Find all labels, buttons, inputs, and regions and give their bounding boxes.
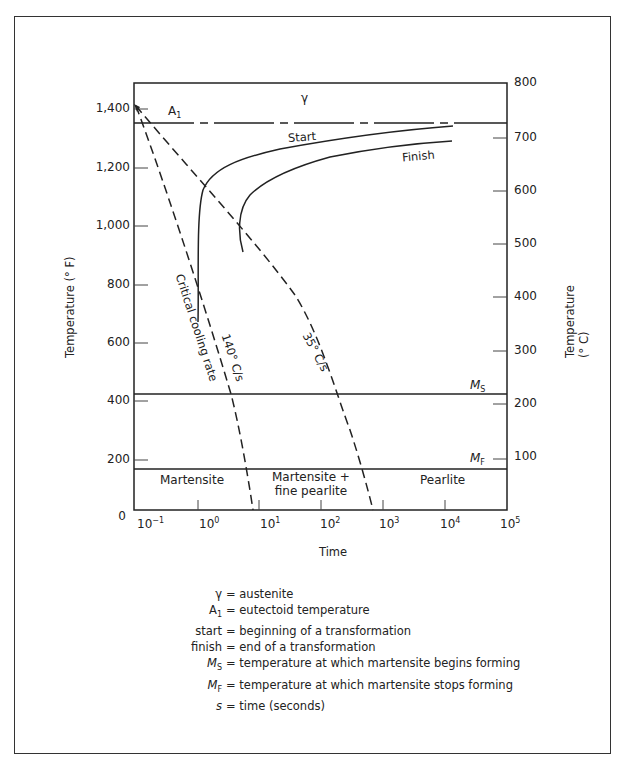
right-tick-300: 300 xyxy=(514,343,537,357)
cooling-curve-35 xyxy=(136,106,373,510)
left-tick-600: 600 xyxy=(80,335,130,349)
legend-text: = end of a transformation xyxy=(226,639,376,655)
legend-row-finish: finish= end of a transformation xyxy=(150,639,520,655)
left-axis-ticks xyxy=(134,109,148,460)
legend-text: = austenite xyxy=(226,586,293,602)
left-tick-1400: 1,400 xyxy=(80,101,130,115)
mart-fine-line2: fine pearlite xyxy=(272,484,350,498)
legend: γ= austenite A1= eutectoid temperature s… xyxy=(150,586,520,714)
legend-key: finish xyxy=(191,640,222,654)
bottom-tick-1e0: 100 xyxy=(199,516,219,531)
legend-sub: S xyxy=(217,664,222,673)
left-tick-0: 0 xyxy=(76,509,126,523)
base: 10 xyxy=(500,517,515,531)
legend-key: M xyxy=(207,678,217,692)
y-axis-left-title: Temperature (° F) xyxy=(63,257,77,359)
legend-key: start xyxy=(195,624,222,638)
base: 10 xyxy=(320,517,335,531)
martensite-fine-pearlite-label: Martensite + fine pearlite xyxy=(272,470,350,498)
legend-row-start: start= beginning of a transformation xyxy=(150,623,520,639)
mf-text: M xyxy=(470,451,480,465)
exp: 0 xyxy=(214,516,219,525)
legend-sub: F xyxy=(217,685,222,694)
legend-sub: 1 xyxy=(217,610,222,619)
base: 10 xyxy=(260,517,275,531)
legend-text: = temperature at which martensite begins… xyxy=(226,655,520,676)
right-tick-600: 600 xyxy=(514,183,537,197)
legend-text: = temperature at which martensite stops … xyxy=(226,677,513,698)
exp: 1 xyxy=(275,516,280,525)
bottom-tick-1e1: 101 xyxy=(260,516,280,531)
legend-text: = time (seconds) xyxy=(226,698,325,714)
exp: 3 xyxy=(394,516,399,525)
exp: −1 xyxy=(152,516,164,525)
legend-key: γ xyxy=(215,587,222,601)
base: 10 xyxy=(199,517,214,531)
bottom-tick-1e3: 103 xyxy=(379,516,399,531)
pearlite-region-label: Pearlite xyxy=(420,473,465,487)
a1-sub: 1 xyxy=(176,111,181,120)
start-label: Start xyxy=(288,129,317,145)
left-tick-1000: 1,000 xyxy=(80,218,130,232)
y-axis-right-title: Temperature (° C) xyxy=(563,285,591,358)
right-tick-500: 500 xyxy=(514,236,537,250)
right-tick-800: 800 xyxy=(514,75,537,89)
right-tick-200: 200 xyxy=(514,396,537,410)
a1-text: A xyxy=(168,104,176,118)
bottom-tick-1e-1: 10−1 xyxy=(137,516,164,531)
mf-label: MF xyxy=(470,451,485,467)
mart-fine-line1: Martensite + xyxy=(272,470,350,484)
exp: 2 xyxy=(335,516,340,525)
left-tick-800: 800 xyxy=(80,277,130,291)
x-axis-title: Time xyxy=(319,545,347,559)
exp: 5 xyxy=(515,516,520,525)
exp: 4 xyxy=(455,516,460,525)
ms-label: MS xyxy=(470,378,485,394)
legend-key: M xyxy=(207,656,217,670)
martensite-region-label: Martensite xyxy=(160,473,224,487)
legend-text: = eutectoid temperature xyxy=(226,602,370,623)
a1-label: A1 xyxy=(168,104,181,120)
legend-row-a1: A1= eutectoid temperature xyxy=(150,602,520,623)
right-axis-ticks xyxy=(493,138,507,459)
left-tick-200: 200 xyxy=(80,452,130,466)
base: 10 xyxy=(440,517,455,531)
legend-key: s xyxy=(216,699,222,713)
gamma-label: γ xyxy=(301,91,308,105)
legend-row-gamma: γ= austenite xyxy=(150,586,520,602)
finish-label: Finish xyxy=(401,148,435,165)
bottom-tick-1e5: 105 xyxy=(500,516,520,531)
bottom-tick-1e4: 104 xyxy=(440,516,460,531)
mf-sub: F xyxy=(480,458,485,467)
right-tick-700: 700 xyxy=(514,130,537,144)
legend-text: = beginning of a transformation xyxy=(226,623,411,639)
ms-text: M xyxy=(470,378,480,392)
left-tick-1200: 1,200 xyxy=(80,160,130,174)
legend-key: A xyxy=(209,603,217,617)
legend-row-mf: MF= temperature at which martensite stop… xyxy=(150,677,520,698)
base: 10 xyxy=(137,517,152,531)
base: 10 xyxy=(379,517,394,531)
legend-row-s: s= time (seconds) xyxy=(150,698,520,714)
ms-sub: S xyxy=(480,385,485,394)
bottom-tick-1e2: 102 xyxy=(320,516,340,531)
right-tick-400: 400 xyxy=(514,289,537,303)
bottom-axis-ticks xyxy=(198,500,445,510)
left-tick-400: 400 xyxy=(80,393,130,407)
right-tick-100: 100 xyxy=(514,449,537,463)
legend-row-ms: MS= temperature at which martensite begi… xyxy=(150,655,520,676)
